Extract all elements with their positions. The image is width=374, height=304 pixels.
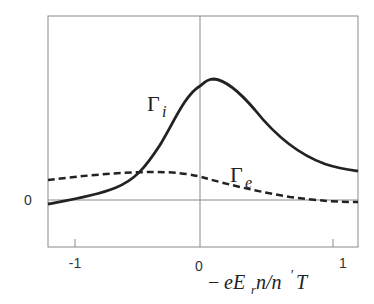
svg-text:eE: eE bbox=[224, 271, 245, 293]
svg-text:′: ′ bbox=[290, 268, 294, 283]
svg-text:−: − bbox=[208, 271, 219, 293]
svg-text:T: T bbox=[296, 271, 309, 293]
svg-text:i: i bbox=[162, 103, 166, 120]
gamma-i-curve bbox=[48, 79, 358, 204]
plot-frame bbox=[48, 16, 358, 247]
gamma-i-label: Γ i bbox=[147, 91, 166, 120]
svg-text:Γ: Γ bbox=[147, 91, 160, 116]
x-tick-label-neg1: -1 bbox=[69, 255, 82, 271]
svg-text:n/n: n/n bbox=[256, 271, 282, 293]
chart: 0 -1 0 1 Γ i Γ e − eE r n/n ′ T bbox=[0, 0, 374, 304]
svg-text:e: e bbox=[245, 174, 252, 191]
gamma-e-curve bbox=[48, 172, 358, 202]
x-tick-label-0: 0 bbox=[195, 258, 203, 274]
x-axis-label: − eE r n/n ′ T bbox=[208, 268, 309, 297]
gamma-e-label: Γ e bbox=[230, 162, 252, 191]
svg-text:Γ: Γ bbox=[230, 162, 243, 187]
x-tick-label-1: 1 bbox=[339, 255, 347, 271]
y-tick-label-zero: 0 bbox=[24, 192, 32, 208]
